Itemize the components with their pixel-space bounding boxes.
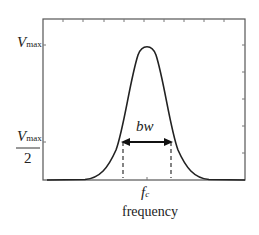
ytick-half-den: 2 <box>24 150 32 167</box>
x-axis-label: frequency <box>122 204 178 220</box>
ytick-half-max: Vmax <box>17 128 42 145</box>
xtick-fc: fc <box>141 184 149 201</box>
ytick-vmax: Vmax <box>17 34 42 51</box>
gaussian-curve <box>47 47 245 180</box>
half-num-main: V <box>17 128 26 144</box>
axis-box <box>43 19 245 180</box>
bandwidth-arrow <box>121 138 173 146</box>
vmax-sub: max <box>26 39 42 49</box>
fc-sub: c <box>145 189 149 199</box>
bw-label: bw <box>136 118 154 135</box>
half-num-sub: max <box>26 133 42 143</box>
vmax-main: V <box>17 34 26 50</box>
